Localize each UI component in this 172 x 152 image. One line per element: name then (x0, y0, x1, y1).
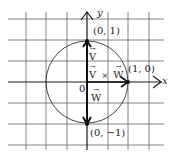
point-label-1-0: (1, 0) (128, 64, 155, 74)
unit-circle-diagram: y x 0 (0, 1) (1, 0) (0, −1) V V × W W (0, 0, 172, 152)
cross-left-symbol: V (89, 70, 96, 80)
cross-right-symbol: W (113, 70, 123, 80)
point-0-1 (85, 39, 89, 43)
y-axis-label: y (97, 8, 103, 18)
point-1-0 (126, 80, 130, 84)
point-0-neg1 (85, 122, 89, 126)
vector-v-symbol: V (89, 52, 96, 62)
vector-w-label: W (91, 93, 101, 103)
vector-w-symbol: W (91, 93, 101, 103)
diagram-canvas (0, 0, 172, 152)
vector-v-cross-w-label: V × W (89, 70, 124, 80)
point-label-0-neg1: (0, −1) (90, 128, 125, 138)
x-axis-label: x (162, 76, 168, 86)
cross-operator: × (101, 71, 108, 80)
vector-v-label: V (89, 52, 96, 62)
point-label-0-1: (0, 1) (93, 26, 120, 36)
origin-label: 0 (79, 84, 85, 94)
